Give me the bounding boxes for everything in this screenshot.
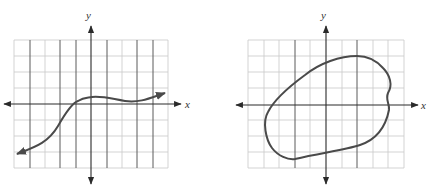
right-graph: x y bbox=[236, 9, 426, 184]
right-axes: x y bbox=[236, 9, 426, 184]
y-axis-label: y bbox=[85, 9, 91, 21]
x-axis-label: x bbox=[184, 98, 190, 110]
graphs-canvas: x y x y bbox=[0, 0, 427, 192]
y-axis-label: y bbox=[320, 9, 326, 21]
left-graph: x y bbox=[4, 9, 190, 184]
x-axis-label: x bbox=[420, 99, 426, 111]
closed-loop-curve bbox=[265, 56, 390, 159]
